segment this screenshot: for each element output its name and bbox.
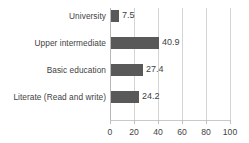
category-axis-labels: University Upper intermediate Basic educ…: [0, 10, 106, 118]
x-axis-tick: [134, 120, 135, 124]
bar-value-label: 24.2: [139, 90, 160, 103]
x-tick-label: 0: [108, 125, 113, 139]
category-label: Literate (Read and write): [13, 91, 106, 103]
x-axis-tick: [158, 120, 159, 124]
plot-area: 7.5 40.9 27.4 24.2: [110, 8, 230, 120]
x-axis-tick: [206, 120, 207, 124]
bar-value-label: 27.4: [143, 63, 164, 76]
category-label: Basic education: [47, 64, 106, 76]
category-label: University: [69, 10, 106, 22]
gridline-100: [230, 8, 231, 120]
x-tick-label: 100: [223, 125, 237, 139]
bar-value-label: 7.5: [119, 9, 135, 22]
category-label: Upper intermediate: [35, 37, 106, 49]
x-axis-tick: [230, 120, 231, 124]
gridline-80: [206, 8, 207, 120]
x-tick-label: 20: [129, 125, 139, 139]
bar-upper-intermediate[interactable]: [110, 37, 159, 49]
bar-basic-education[interactable]: [110, 64, 143, 76]
bar-university[interactable]: [110, 10, 119, 22]
gridline-60: [182, 8, 183, 120]
x-axis-line: [110, 120, 231, 121]
x-axis-tick: [110, 120, 111, 124]
bar-chart: University Upper intermediate Basic educ…: [0, 0, 249, 143]
x-axis-tick: [182, 120, 183, 124]
x-tick-label: 80: [201, 125, 211, 139]
y-axis-line: [110, 8, 111, 120]
x-tick-label: 60: [177, 125, 187, 139]
bar-literate[interactable]: [110, 91, 139, 103]
x-tick-label: 40: [153, 125, 163, 139]
x-axis-tick-labels: 0 20 40 60 80 100: [110, 125, 231, 139]
bar-value-label: 40.9: [159, 36, 180, 49]
